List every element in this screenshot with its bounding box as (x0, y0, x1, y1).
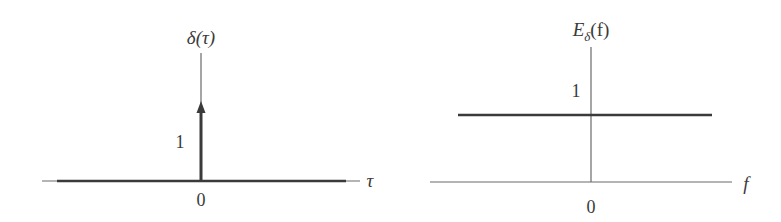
spectrum-level-label: 1 (572, 81, 581, 101)
right-x-axis-label: f (743, 173, 751, 194)
left-panel-impulse: δ(τ) 1 0 τ (42, 27, 375, 210)
left-x-axis-label: τ (367, 170, 375, 191)
right-title: Eδ(f) (572, 19, 610, 44)
left-title: δ(τ) (187, 27, 215, 49)
impulse-arrow-icon (197, 101, 206, 113)
figure-canvas: δ(τ) 1 0 τ Eδ(f) 1 0 f (0, 0, 781, 222)
left-origin-label: 0 (197, 190, 206, 210)
right-origin-label: 0 (587, 197, 596, 217)
right-panel-spectrum: Eδ(f) 1 0 f (430, 19, 751, 217)
impulse-weight-label: 1 (176, 132, 185, 152)
